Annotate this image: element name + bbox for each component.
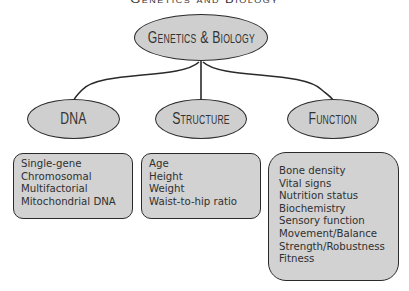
list-item: Sensory function (279, 215, 398, 228)
list-item: Weight (149, 183, 260, 196)
list-item: Single-gene (21, 158, 132, 171)
list-item: Mitochondrial DNA (21, 196, 132, 209)
root-label: Genetics & Biology (147, 28, 254, 48)
list-item: Multifactorial (21, 183, 132, 196)
structure-list-box: Age Height Weight Waist-to-hip ratio (141, 153, 261, 219)
list-item: Waist-to-hip ratio (149, 196, 260, 209)
list-item: Chromosomal (21, 171, 132, 184)
list-item: Nutrition status (279, 190, 398, 203)
node-function: Function (287, 99, 379, 139)
list-item: Vital signs (279, 178, 398, 191)
node-structure: Structure (155, 99, 247, 139)
dna-list-box: Single-gene Chromosomal Multifactorial M… (13, 153, 133, 219)
list-item: Height (149, 171, 260, 184)
list-item: Strength/Robustness (279, 241, 398, 254)
node-dna: DNA (27, 99, 120, 139)
list-item: Movement/Balance (279, 228, 398, 241)
list-item: Bone density (279, 165, 398, 178)
list-item: Fitness (279, 253, 398, 266)
node-dna-label: DNA (60, 109, 86, 129)
list-item: Biochemistry (279, 203, 398, 216)
root-node: Genetics & Biology (134, 14, 268, 61)
list-item: Age (149, 158, 260, 171)
node-structure-label: Structure (172, 109, 230, 129)
function-list-box: Bone density Vital signs Nutrition statu… (268, 152, 399, 281)
node-function-label: Function (309, 109, 358, 129)
